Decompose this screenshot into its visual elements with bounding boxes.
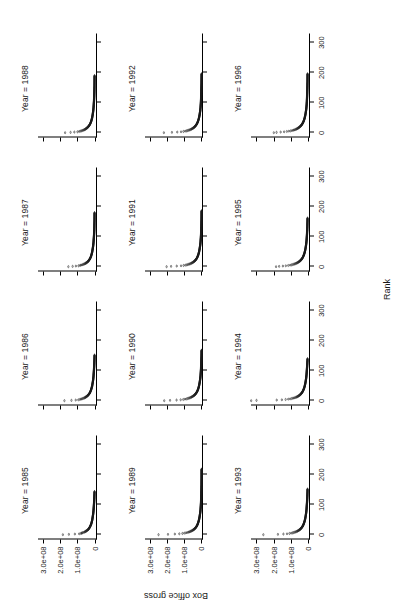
strip-label: Year = 1996	[233, 21, 243, 155]
y-tick	[184, 405, 185, 409]
y-tick	[60, 137, 61, 141]
y-tick	[201, 405, 202, 409]
x-tick-label: 200	[317, 334, 326, 347]
x-tick	[203, 235, 207, 236]
panel-1995: Year = 19950100200300	[229, 155, 336, 289]
x-tick	[310, 235, 314, 236]
y-tick-label: 1.0e+08	[73, 546, 82, 573]
x-tick-label: 200	[317, 66, 326, 79]
y-tick	[60, 405, 61, 409]
x-tick	[97, 235, 101, 236]
plot-area	[145, 167, 204, 271]
y-tick	[256, 271, 257, 275]
x-tick-label: 200	[317, 200, 326, 213]
x-tick	[97, 265, 101, 266]
rotated-figure-container: Box office gross Year = 198501.0e+082.0e…	[0, 0, 394, 609]
x-tick-label: 100	[317, 230, 326, 243]
y-tick	[43, 539, 44, 543]
x-tick-label: 100	[317, 498, 326, 511]
y-tick	[95, 137, 96, 141]
x-tick	[97, 399, 101, 400]
plot-area	[38, 301, 97, 405]
y-tick	[77, 137, 78, 141]
panel-1988: Year = 1988	[16, 21, 123, 155]
y-tick	[291, 405, 292, 409]
x-tick	[97, 131, 101, 132]
y-tick	[43, 271, 44, 275]
x-tick-label: 0	[317, 532, 326, 536]
y-tick	[77, 271, 78, 275]
data-points	[38, 33, 97, 137]
data-points	[145, 33, 204, 137]
x-tick	[310, 205, 314, 206]
y-tick	[43, 405, 44, 409]
y-tick	[184, 137, 185, 141]
trellis-figure: Box office gross Year = 198501.0e+082.0e…	[0, 0, 394, 609]
y-tick	[167, 137, 168, 141]
y-tick	[256, 539, 257, 543]
plot-area	[145, 301, 204, 405]
y-tick-label: 2.0e+08	[56, 546, 65, 573]
y-tick	[274, 539, 275, 543]
strip-label: Year = 1992	[127, 21, 137, 155]
y-tick	[256, 405, 257, 409]
x-tick	[203, 443, 207, 444]
plot-area: 0100200300	[251, 33, 310, 137]
y-tick	[291, 271, 292, 275]
data-points	[38, 167, 97, 271]
strip-label: Year = 1989	[127, 423, 137, 557]
y-tick	[291, 137, 292, 141]
y-tick-label: 3.0e+08	[39, 546, 48, 573]
panel-1986: Year = 1986	[16, 289, 123, 423]
x-tick	[310, 443, 314, 444]
x-tick	[97, 369, 101, 370]
x-tick	[310, 503, 314, 504]
panel-1992: Year = 1992	[123, 21, 230, 155]
x-tick	[203, 399, 207, 400]
x-tick	[97, 205, 101, 206]
x-tick	[203, 205, 207, 206]
y-tick	[308, 405, 309, 409]
x-tick	[203, 309, 207, 310]
y-tick	[95, 539, 96, 543]
y-tick	[150, 539, 151, 543]
data-points	[251, 435, 310, 539]
strip-label: Year = 1990	[127, 289, 137, 423]
panel-1991: Year = 1991	[123, 155, 230, 289]
data-points	[38, 301, 97, 405]
y-tick-label: 0	[197, 546, 206, 550]
plot-area: 0100200300	[251, 301, 310, 405]
data-points	[145, 301, 204, 405]
y-tick	[308, 137, 309, 141]
y-tick-label: 1.0e+08	[286, 546, 295, 573]
x-tick	[203, 369, 207, 370]
data-points	[38, 435, 97, 539]
x-tick	[203, 533, 207, 534]
panel-1987: Year = 1987	[16, 155, 123, 289]
data-points	[251, 33, 310, 137]
data-points	[251, 167, 310, 271]
x-tick	[97, 503, 101, 504]
x-tick	[97, 533, 101, 534]
x-tick-label: 300	[317, 438, 326, 451]
y-tick	[167, 539, 168, 543]
y-tick	[77, 539, 78, 543]
x-tick	[97, 309, 101, 310]
data-points	[145, 167, 204, 271]
plot-area: 010020030001.0e+082.0e+083.0e+08	[251, 435, 310, 539]
x-tick	[203, 101, 207, 102]
x-tick-label: 300	[317, 170, 326, 183]
y-tick-label: 0	[90, 546, 99, 550]
strip-label: Year = 1994	[233, 289, 243, 423]
strip-label: Year = 1995	[233, 155, 243, 289]
x-tick	[203, 175, 207, 176]
strip-label: Year = 1993	[233, 423, 243, 557]
x-tick	[310, 71, 314, 72]
x-axis-title: Rank	[382, 21, 392, 557]
y-tick-label: 2.0e+08	[162, 546, 171, 573]
plot-area: 01.0e+082.0e+083.0e+08	[38, 435, 97, 539]
x-tick	[310, 369, 314, 370]
y-tick	[274, 271, 275, 275]
plot-area	[38, 33, 97, 137]
y-tick-label: 3.0e+08	[252, 546, 261, 573]
